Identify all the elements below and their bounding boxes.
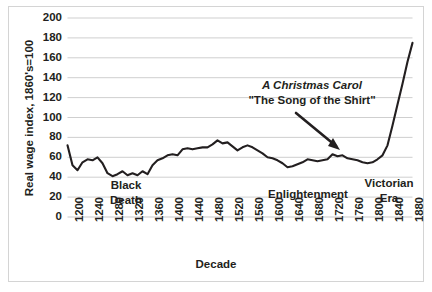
x-tick-label: 1480	[213, 197, 225, 222]
x-axis-ticks: 1200124012801320136014001440148015201560…	[0, 0, 432, 292]
x-tick-label: 1400	[173, 197, 185, 222]
annotation-callout-subtitle: "The Song of the Shirt"	[240, 93, 384, 108]
annotation-enlightenment: Enlightenment	[253, 187, 363, 202]
x-tick-label: 1200	[73, 197, 85, 222]
annotation-victorian-era: Victorian Era	[358, 176, 420, 206]
x-axis-title: Decade	[0, 258, 432, 270]
annotation-victorian-line2: Era	[358, 191, 420, 206]
annotation-black-death-line1: Black	[96, 178, 156, 193]
chart-figure: 200180160140120100806040200 120012401280…	[0, 0, 432, 292]
annotation-victorian-line1: Victorian	[358, 176, 420, 191]
y-axis-title: Real wage index, 1860's=100	[23, 28, 35, 208]
x-tick-label: 1520	[233, 197, 245, 222]
annotation-black-death-line2: Death	[96, 193, 156, 208]
annotation-callout: A Christmas Carol "The Song of the Shirt…	[240, 78, 384, 108]
annotation-callout-title: A Christmas Carol	[240, 78, 384, 93]
annotation-black-death: Black Death	[96, 178, 156, 208]
x-tick-label: 1440	[193, 197, 205, 222]
